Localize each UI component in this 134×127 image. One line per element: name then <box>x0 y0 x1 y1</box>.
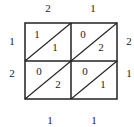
cell-ones: 2 <box>52 79 64 90</box>
cell-tens: 0 <box>77 29 89 40</box>
right-digit: 1 <box>123 68 134 79</box>
top-digit: 2 <box>42 3 54 14</box>
cell-ones: 1 <box>49 42 61 53</box>
cell-tens: 0 <box>33 66 45 77</box>
top-digit: 1 <box>87 3 99 14</box>
diagonal <box>25 61 71 99</box>
diagonal <box>71 61 117 99</box>
cell-ones: 2 <box>95 42 107 53</box>
cell-ones: 1 <box>97 79 109 90</box>
right-digit: 2 <box>123 36 134 47</box>
left-digit: 1 <box>6 36 18 47</box>
cell-tens: 1 <box>31 29 43 40</box>
bottom-digit: 1 <box>88 115 100 126</box>
left-digit: 2 <box>6 68 18 79</box>
bottom-digit: 1 <box>44 115 56 126</box>
cell-tens: 0 <box>79 66 91 77</box>
lattice-grid <box>0 0 134 127</box>
